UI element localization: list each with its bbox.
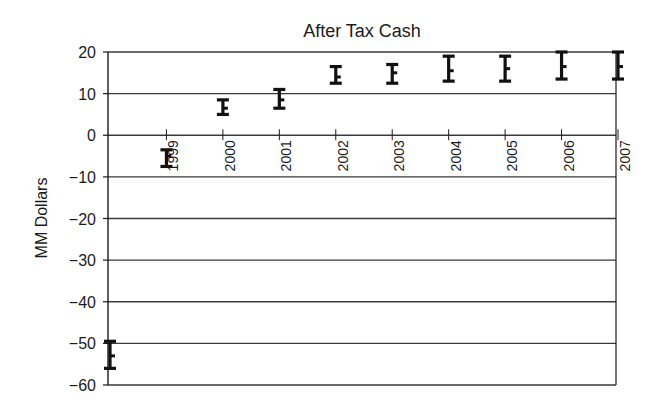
error-bar-2000 — [217, 100, 229, 115]
y-tick-label: 10 — [78, 86, 96, 103]
y-tick-label: −10 — [69, 169, 96, 186]
x-tick-label: 2007 — [617, 140, 633, 171]
x-tick-label: 2001 — [278, 140, 294, 171]
y-tick-label: −30 — [69, 252, 96, 269]
x-tick-label: 2002 — [335, 140, 351, 171]
gridlines — [108, 52, 616, 385]
y-axis-label: MM Dollars — [33, 178, 50, 259]
x-tick-label: 2004 — [448, 140, 464, 171]
x-tick-label: 2000 — [222, 140, 238, 171]
error-bar-2003 — [386, 64, 398, 83]
y-tick-label: −60 — [69, 377, 96, 394]
y-tick-label: 20 — [78, 44, 96, 61]
error-bar-2004 — [443, 56, 455, 81]
y-tick-label: −40 — [69, 294, 96, 311]
error-bar-2001 — [273, 89, 285, 108]
error-bar-2007 — [612, 52, 624, 79]
error-bar-1998 — [104, 341, 116, 368]
y-tick-label: −20 — [69, 211, 96, 228]
chart-container: After Tax Cash MM Dollars 20100−10−20−30… — [0, 0, 650, 411]
x-tick-label: 2005 — [504, 140, 520, 171]
y-tick-label: −50 — [69, 335, 96, 352]
y-tick-label: 0 — [87, 127, 96, 144]
error-bar-2006 — [556, 52, 568, 79]
error-bar-2005 — [499, 56, 511, 81]
error-bar-2002 — [330, 67, 342, 84]
chart-title: After Tax Cash — [303, 21, 421, 41]
error-bar-chart: After Tax Cash MM Dollars 20100−10−20−30… — [0, 0, 650, 411]
x-tick-label: 2003 — [391, 140, 407, 171]
error-bars — [104, 52, 624, 368]
x-tick-label: 2006 — [561, 140, 577, 171]
